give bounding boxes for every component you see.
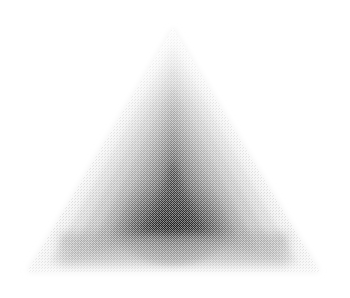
image-canvas: Grayscale dithered triangle with nested … <box>0 0 350 298</box>
nested-triangle-gradient-figure <box>0 0 350 298</box>
